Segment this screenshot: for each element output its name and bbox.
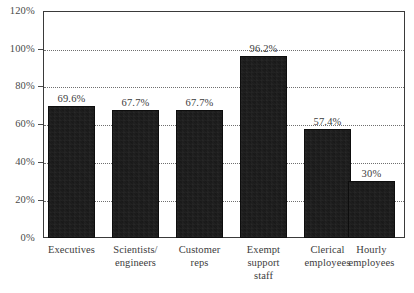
x-cat-label-customer-reps: Customerreps	[168, 243, 231, 269]
x-cat-label-line: Hourly	[340, 243, 403, 256]
bar-exempt-support-staff[interactable]	[240, 56, 287, 238]
x-cat-label-exempt-support-staff: Exemptsupportstaff	[232, 243, 295, 282]
bar-value-exempt-support-staff: 96.2%	[249, 43, 277, 54]
y-tick-label-40: 40%	[15, 157, 35, 167]
bar-value-clerical-employees: 57.4%	[313, 116, 341, 127]
bar-value-customer-reps: 67.7%	[185, 97, 213, 108]
y-tick-label-80: 80%	[15, 81, 35, 91]
x-cat-label-line: staff	[232, 269, 295, 282]
x-axis: Executives Scientists/engineers Customer…	[43, 243, 405, 293]
bar-group-hourly-employees: 30%	[348, 11, 395, 238]
x-cat-label-hourly-employees: Hourlyemployees	[340, 243, 403, 269]
bar-group-clerical-employees: 57.4%	[304, 11, 351, 238]
bar-customer-reps[interactable]	[176, 110, 223, 238]
x-cat-label-line: employees	[340, 256, 403, 269]
x-cat-label-line: engineers	[104, 256, 167, 269]
x-cat-label-line: Exempt	[232, 243, 295, 256]
x-cat-label-line: support	[232, 256, 295, 269]
bar-scientists-engineers[interactable]	[112, 110, 159, 238]
bar-group-exempt-support-staff: 96.2%	[240, 11, 287, 238]
bar-clerical-employees[interactable]	[304, 129, 351, 238]
bars-layer: 69.6% 67.7% 67.7% 96.2% 57.4% 30%	[43, 11, 405, 238]
y-tick-label-100: 100%	[10, 44, 35, 54]
y-tick-label-120: 120%	[10, 6, 35, 16]
x-cat-label-executives: Executives	[40, 243, 103, 256]
x-cat-label-line: Customer	[168, 243, 231, 256]
bar-value-scientists-engineers: 67.7%	[121, 97, 149, 108]
x-cat-label-line: Executives	[40, 243, 103, 256]
y-tick-label-20: 20%	[15, 195, 35, 205]
y-tick-label-60: 60%	[15, 119, 35, 129]
x-cat-label-scientists-engineers: Scientists/engineers	[104, 243, 167, 269]
bar-chart: 120% 100% 80% 60% 40% 20% 0% 69.6% 67.7%…	[0, 0, 414, 293]
x-cat-label-line: reps	[168, 256, 231, 269]
bar-group-executives: 69.6%	[48, 11, 95, 238]
bar-group-scientists-engineers: 67.7%	[112, 11, 159, 238]
bar-executives[interactable]	[48, 106, 95, 238]
bar-value-hourly-employees: 30%	[362, 168, 382, 179]
y-axis: 120% 100% 80% 60% 40% 20% 0%	[0, 0, 43, 293]
y-tick-label-0: 0%	[21, 233, 35, 243]
bar-group-customer-reps: 67.7%	[176, 11, 223, 238]
bar-hourly-employees[interactable]	[348, 181, 395, 238]
x-cat-label-line: Scientists/	[104, 243, 167, 256]
bar-value-executives: 69.6%	[57, 93, 85, 104]
